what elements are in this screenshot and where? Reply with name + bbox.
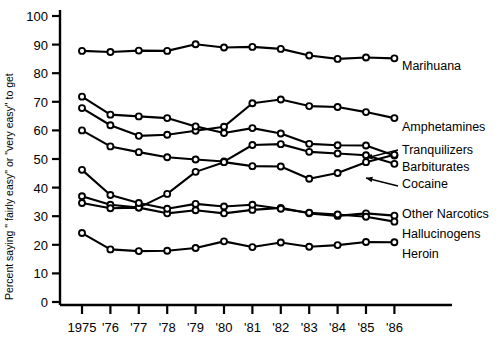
data-point-marker [164, 191, 170, 197]
line-chart-canvas: Percent saying " fairly easy" or "very e… [0, 0, 504, 347]
series-line [82, 130, 394, 163]
y-axis-title: Percent saying " fairly easy" or "very e… [3, 73, 15, 300]
data-point-marker [335, 242, 341, 248]
data-point-marker [249, 142, 255, 148]
data-point-marker [391, 161, 397, 167]
series-label-marihuana: Marihuana [402, 59, 461, 73]
series-line [82, 44, 394, 59]
y-tick-label: 50 [34, 152, 48, 167]
data-point-marker [79, 105, 85, 111]
data-point-marker [136, 200, 142, 206]
data-point-marker [363, 239, 369, 245]
data-point-marker [193, 41, 199, 47]
data-point-marker [107, 205, 113, 211]
data-point-marker [306, 176, 312, 182]
y-tick-label: 10 [34, 266, 48, 281]
data-point-marker [391, 115, 397, 121]
data-point-marker [107, 246, 113, 252]
data-point-marker [164, 48, 170, 54]
data-point-marker [391, 219, 397, 225]
series-line [82, 233, 394, 251]
data-point-marker [136, 149, 142, 155]
x-tick-label: '84 [329, 320, 346, 335]
series-line [82, 97, 394, 156]
data-point-marker [107, 143, 113, 149]
y-tick-label: 30 [34, 209, 48, 224]
data-point-marker [335, 170, 341, 176]
data-point-marker [221, 159, 227, 165]
data-point-marker [79, 200, 85, 206]
series-label-cocaine: Cocaine [402, 177, 448, 191]
x-tick-label: 1975 [68, 320, 97, 335]
data-point-marker [221, 203, 227, 209]
x-tick-label: '79 [187, 320, 204, 335]
series-label-other-narcotics: Other Narcotics [402, 207, 489, 221]
data-point-marker [249, 163, 255, 169]
data-point-marker [136, 113, 142, 119]
data-point-marker [363, 159, 369, 165]
x-tick-label: '82 [272, 320, 289, 335]
data-point-marker [79, 48, 85, 54]
data-point-marker [278, 46, 284, 52]
series-label-hallucinogens: Hallucinogens [402, 227, 481, 241]
series-label-tranquilizers: Tranquilizers [402, 143, 473, 157]
series-label-amphetamines: Amphetamines [402, 120, 485, 134]
data-point-marker [278, 141, 284, 147]
data-point-marker [221, 238, 227, 244]
y-tick-label: 80 [34, 66, 48, 81]
data-point-marker [221, 124, 227, 130]
data-point-marker [107, 122, 113, 128]
data-point-marker [306, 52, 312, 58]
x-tick-label: '86 [386, 320, 403, 335]
data-point-marker [278, 131, 284, 137]
data-point-marker [335, 151, 341, 157]
data-point-marker [306, 210, 312, 216]
data-point-marker [79, 167, 85, 173]
data-point-marker [136, 48, 142, 54]
data-point-marker [107, 192, 113, 198]
data-point-marker [278, 240, 284, 246]
data-point-marker [79, 94, 85, 100]
data-point-marker [193, 245, 199, 251]
x-tick-label: '83 [301, 320, 318, 335]
data-point-marker [335, 104, 341, 110]
y-tick-label: 70 [34, 95, 48, 110]
series-label-group: MarihuanaAmphetaminesTranquilizersBarbit… [402, 59, 489, 261]
data-point-marker [136, 133, 142, 139]
y-tick-label: 0 [41, 295, 48, 310]
data-point-marker [391, 55, 397, 61]
y-tick-label: 60 [34, 123, 48, 138]
data-point-marker [249, 202, 255, 208]
data-point-marker [164, 132, 170, 138]
data-point-marker [306, 103, 312, 109]
y-tick-label: 100 [26, 9, 48, 24]
data-point-marker [363, 214, 369, 220]
data-point-marker [193, 123, 199, 129]
data-point-marker [107, 112, 113, 118]
data-point-marker [306, 149, 312, 155]
data-point-marker [107, 49, 113, 55]
data-point-marker [221, 130, 227, 136]
x-tick-label: '77 [130, 320, 147, 335]
data-point-marker [363, 143, 369, 149]
data-point-marker [164, 248, 170, 254]
data-point-marker [221, 210, 227, 216]
chart-figure: Percent saying " fairly easy" or "very e… [0, 0, 504, 347]
data-point-marker [363, 54, 369, 60]
data-point-marker [164, 154, 170, 160]
data-point-marker [249, 125, 255, 131]
data-point-marker [363, 109, 369, 115]
data-point-marker [335, 211, 341, 217]
data-point-marker [193, 207, 199, 213]
series-line [82, 170, 394, 222]
series-label-barbiturates: Barbiturates [402, 160, 469, 174]
x-tick-label: '81 [244, 320, 261, 335]
data-point-marker [193, 169, 199, 175]
data-point-marker [335, 142, 341, 148]
data-point-marker [136, 248, 142, 254]
data-point-marker [193, 157, 199, 163]
y-axis-ticks: 0102030405060708090100 [26, 9, 60, 310]
data-point-marker [164, 115, 170, 121]
series-label-heroin: Heroin [402, 247, 439, 261]
x-tick-label: '85 [358, 320, 375, 335]
